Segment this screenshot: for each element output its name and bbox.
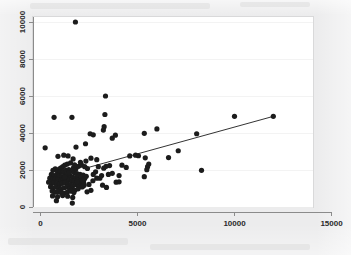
data-point	[60, 193, 65, 198]
data-point	[54, 198, 59, 203]
data-point	[199, 168, 204, 173]
data-point	[51, 115, 56, 120]
data-point	[70, 195, 75, 200]
data-point	[86, 182, 91, 187]
data-point	[83, 159, 88, 164]
data-point	[154, 126, 159, 131]
data-point	[67, 170, 72, 175]
data-point	[88, 156, 93, 161]
data-point	[232, 114, 237, 119]
data-point	[75, 179, 80, 184]
y-tick-label-8000: 8000	[18, 50, 27, 68]
y-tick-label-10000: 10000	[18, 10, 27, 33]
data-point	[85, 166, 90, 171]
data-point	[71, 190, 76, 195]
data-point	[69, 115, 74, 120]
y-tick-label-2000: 2000	[18, 161, 27, 179]
data-point	[116, 179, 121, 184]
data-point	[62, 174, 67, 179]
data-point	[73, 19, 78, 24]
data-point	[55, 154, 60, 159]
data-point	[104, 185, 109, 190]
data-point	[142, 131, 147, 136]
x-axis-tick-labels: 0 5000 10000 15000	[38, 219, 343, 228]
data-point	[73, 144, 78, 149]
data-point	[116, 173, 121, 178]
data-point	[166, 155, 171, 160]
scatter-plot-screenshot: 0 2000 4000 6000 8000 10000 0 5000 10000…	[0, 0, 351, 255]
data-point	[50, 193, 55, 198]
data-point	[144, 167, 149, 172]
data-point	[142, 174, 147, 179]
y-tick-label-0: 0	[18, 204, 27, 209]
data-point	[101, 127, 106, 132]
data-point	[194, 131, 199, 136]
data-point	[127, 153, 132, 158]
data-point	[103, 93, 108, 98]
data-point	[43, 145, 48, 150]
data-point	[271, 114, 276, 119]
data-point	[102, 112, 107, 117]
y-tick-label-4000: 4000	[18, 124, 27, 142]
data-point	[79, 184, 84, 189]
data-point	[80, 177, 85, 182]
data-point	[65, 194, 70, 199]
data-point	[88, 188, 93, 193]
data-point	[93, 169, 98, 174]
data-point	[143, 155, 148, 160]
scatter-plot-svg: 0 2000 4000 6000 8000 10000 0 5000 10000…	[0, 0, 351, 255]
data-point	[83, 141, 88, 146]
data-point	[136, 153, 141, 158]
data-point	[97, 176, 102, 181]
x-tick-label-15000: 15000	[320, 219, 343, 228]
figure-container: 0 2000 4000 6000 8000 10000 0 5000 10000…	[0, 0, 351, 255]
data-point	[65, 153, 70, 158]
y-tick-label-6000: 6000	[18, 87, 27, 105]
data-point	[78, 160, 83, 165]
data-point	[101, 166, 106, 171]
data-point	[96, 164, 101, 169]
x-tick-label-10000: 10000	[223, 219, 246, 228]
data-point	[90, 178, 95, 183]
data-point	[119, 163, 124, 168]
data-point	[72, 162, 77, 167]
data-point	[91, 132, 96, 137]
x-tick-label-0: 0	[38, 219, 43, 228]
data-point	[106, 172, 111, 177]
y-axis-tick-labels: 0 2000 4000 6000 8000 10000	[18, 10, 27, 209]
data-point	[94, 157, 99, 162]
data-point	[70, 201, 75, 206]
data-point	[176, 148, 181, 153]
data-point	[110, 136, 115, 141]
x-tick-label-5000: 5000	[129, 219, 147, 228]
